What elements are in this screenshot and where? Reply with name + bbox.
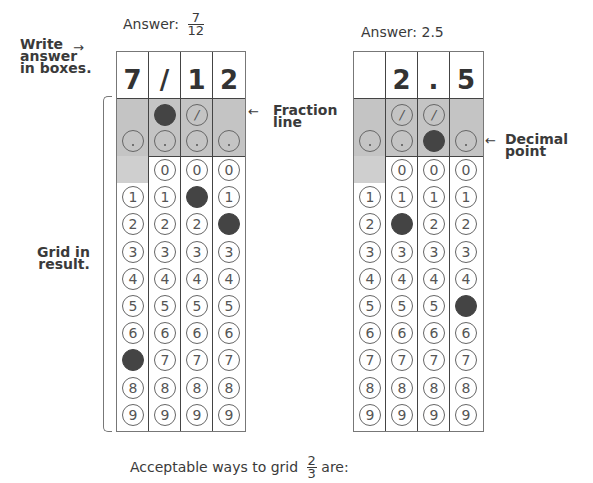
- digit-bubble-5[interactable]: 5: [455, 295, 477, 317]
- digit-bubble-2[interactable]: 2: [391, 213, 413, 235]
- digit-bubble-7[interactable]: 7: [455, 349, 477, 371]
- digit-bubble-9[interactable]: 9: [391, 404, 413, 426]
- slash-bubble[interactable]: /: [186, 104, 208, 126]
- digit-bubble-5[interactable]: 5: [154, 295, 176, 317]
- digit-bubble-6[interactable]: 6: [154, 322, 176, 344]
- digit-bubble-4[interactable]: 4: [359, 268, 381, 290]
- digit-bubble-4[interactable]: 4: [154, 268, 176, 290]
- digit-bubble-4[interactable]: 4: [122, 268, 144, 290]
- digit-bubble-7[interactable]: 7: [122, 349, 144, 371]
- digit-bubble-3[interactable]: 3: [218, 241, 240, 263]
- decimal-bubble[interactable]: [154, 130, 176, 152]
- digit-bubble-8[interactable]: 8: [154, 377, 176, 399]
- digit-bubble-3[interactable]: 3: [455, 241, 477, 263]
- digit-bubble-5[interactable]: 5: [186, 295, 208, 317]
- decimal-bubble[interactable]: [218, 130, 240, 152]
- digit-bubble-2[interactable]: 2: [154, 213, 176, 235]
- decimal-bubble[interactable]: [455, 130, 477, 152]
- digit-bubble-3[interactable]: 3: [423, 241, 445, 263]
- digit-bubble-4[interactable]: 4: [391, 268, 413, 290]
- digit-bubble-0[interactable]: 0: [218, 159, 240, 181]
- digit-bubble-0[interactable]: 0: [455, 159, 477, 181]
- digit-bubble-9[interactable]: 9: [122, 404, 144, 426]
- digit-bubble-0[interactable]: 0: [154, 159, 176, 181]
- digit-bubble-7[interactable]: 7: [218, 349, 240, 371]
- digit-bubble-1[interactable]: 1: [186, 186, 208, 208]
- slash-bubble[interactable]: [154, 104, 176, 126]
- slash-bubble[interactable]: /: [391, 104, 413, 126]
- digit-bubble-6[interactable]: 6: [218, 322, 240, 344]
- digit-bubble-0[interactable]: 0: [423, 159, 445, 181]
- decimal-bubble[interactable]: [359, 130, 381, 152]
- answer-box[interactable]: 5: [450, 52, 482, 98]
- digit-bubble-8[interactable]: 8: [218, 377, 240, 399]
- digit-bubble-2[interactable]: 2: [122, 213, 144, 235]
- decimal-bubble[interactable]: [122, 130, 144, 152]
- digit-bubble-8[interactable]: 8: [186, 377, 208, 399]
- answer-box[interactable]: /: [149, 52, 180, 98]
- digit-bubble-1[interactable]: 1: [455, 186, 477, 208]
- digit-bubble-9[interactable]: 9: [218, 404, 240, 426]
- digit-bubble-2[interactable]: 2: [455, 213, 477, 235]
- digit-bubble-7[interactable]: 7: [359, 349, 381, 371]
- digit-bubble-3[interactable]: 3: [391, 241, 413, 263]
- digit-bubble-0[interactable]: 0: [391, 159, 413, 181]
- answer-box[interactable]: 7: [117, 52, 148, 98]
- grid-column: 20123456789: [213, 52, 245, 431]
- digit-bubble-1[interactable]: 1: [218, 186, 240, 208]
- digit-bubble-8[interactable]: 8: [423, 377, 445, 399]
- digit-bubble-1[interactable]: 1: [423, 186, 445, 208]
- digit-bubble-7[interactable]: 7: [391, 349, 413, 371]
- digit-bubble-4[interactable]: 4: [455, 268, 477, 290]
- digit-bubble-2[interactable]: 2: [186, 213, 208, 235]
- digit-bubble-1[interactable]: 1: [122, 186, 144, 208]
- digit-bubble-6[interactable]: 6: [359, 322, 381, 344]
- digit-bubble-4[interactable]: 4: [423, 268, 445, 290]
- answer-box[interactable]: 2: [213, 52, 245, 98]
- digit-bubble-5[interactable]: 5: [122, 295, 144, 317]
- digit-bubble-6[interactable]: 6: [391, 322, 413, 344]
- arrow-left-icon: ←: [248, 104, 259, 119]
- digit-bubble-1[interactable]: 1: [359, 186, 381, 208]
- digit-bubble-6[interactable]: 6: [423, 322, 445, 344]
- digit-bubble-5[interactable]: 5: [359, 295, 381, 317]
- answer-box[interactable]: 2: [386, 52, 417, 98]
- digit-bubble-6[interactable]: 6: [455, 322, 477, 344]
- digit-bubble-5[interactable]: 5: [218, 295, 240, 317]
- digit-bubble-8[interactable]: 8: [359, 377, 381, 399]
- digit-bubble-3[interactable]: 3: [186, 241, 208, 263]
- digit-bubble-6[interactable]: 6: [186, 322, 208, 344]
- digit-bubble-7[interactable]: 7: [423, 349, 445, 371]
- digit-bubble-3[interactable]: 3: [359, 241, 381, 263]
- digit-bubble-1[interactable]: 1: [391, 186, 413, 208]
- digit-bubble-4[interactable]: 4: [186, 268, 208, 290]
- digit-bubble-9[interactable]: 9: [423, 404, 445, 426]
- digit-bubble-8[interactable]: 8: [455, 377, 477, 399]
- digit-bubble-6[interactable]: 6: [122, 322, 144, 344]
- digit-bubble-9[interactable]: 9: [154, 404, 176, 426]
- decimal-bubble[interactable]: [423, 130, 445, 152]
- digit-bubble-2[interactable]: 2: [218, 213, 240, 235]
- digit-bubble-8[interactable]: 8: [391, 377, 413, 399]
- digit-bubble-5[interactable]: 5: [423, 295, 445, 317]
- digit-bubble-9[interactable]: 9: [359, 404, 381, 426]
- decimal-bubble[interactable]: [186, 130, 208, 152]
- slash-bubble[interactable]: /: [423, 104, 445, 126]
- digit-bubble-5[interactable]: 5: [391, 295, 413, 317]
- digit-bubble-9[interactable]: 9: [186, 404, 208, 426]
- answer-box[interactable]: 1: [181, 52, 212, 98]
- digit-bubble-3[interactable]: 3: [122, 241, 144, 263]
- digit-bubble-4[interactable]: 4: [218, 268, 240, 290]
- digit-bubble-9[interactable]: 9: [455, 404, 477, 426]
- digit-bubble-1[interactable]: 1: [154, 186, 176, 208]
- digit-bubble-8[interactable]: 8: [122, 377, 144, 399]
- digit-bubble-0[interactable]: 0: [186, 159, 208, 181]
- digit-bubble-3[interactable]: 3: [154, 241, 176, 263]
- digit-bubble-2[interactable]: 2: [423, 213, 445, 235]
- digit-bubble-7[interactable]: 7: [154, 349, 176, 371]
- answer-box[interactable]: .: [418, 52, 449, 98]
- digit-bubble-2[interactable]: 2: [359, 213, 381, 235]
- digit-bubble-7[interactable]: 7: [186, 349, 208, 371]
- decimal-bubble[interactable]: [391, 130, 413, 152]
- answer-box[interactable]: [354, 52, 385, 98]
